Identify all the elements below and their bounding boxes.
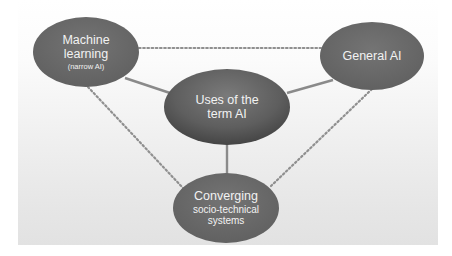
solid-line-center-ml — [125, 78, 170, 93]
diagram-canvas — [0, 0, 452, 256]
node-general-ai — [320, 22, 424, 90]
solid-line-center-general — [287, 80, 333, 93]
node-converging-systems — [173, 173, 279, 243]
node-uses-of-term-ai — [164, 69, 290, 145]
node-machine-learning — [33, 17, 139, 87]
